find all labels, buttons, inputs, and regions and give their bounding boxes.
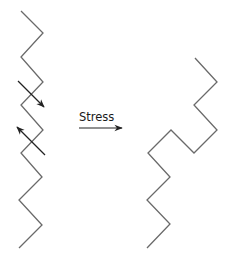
- left-zigzag-chain: [19, 11, 43, 248]
- stress-deformation-diagram: [0, 0, 229, 255]
- stress-label: Stress: [79, 112, 114, 124]
- force-arrow-up-left: [17, 127, 45, 155]
- right-zigzag-chain-deformed: [147, 58, 217, 248]
